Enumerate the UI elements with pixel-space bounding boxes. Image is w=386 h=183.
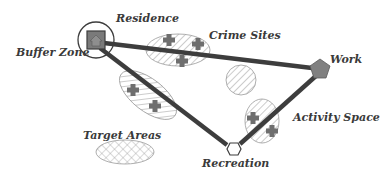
- crime-sites-label: Crime Sites: [209, 30, 281, 41]
- residence-label: Residence: [116, 13, 179, 24]
- recreation-node-hexagon-icon: [227, 143, 241, 155]
- activity-space-label: Activity Space: [293, 112, 380, 123]
- work-node-pentagon-icon: [310, 59, 330, 78]
- path-area-left: [111, 61, 184, 128]
- target-area: [96, 140, 154, 164]
- target-areas-label: Target Areas: [83, 130, 161, 141]
- crime-pattern-diagram: [0, 0, 386, 183]
- isolated-area: [226, 65, 256, 95]
- buffer-zone-label: Buffer Zone: [16, 47, 89, 58]
- residence-node: [87, 31, 105, 49]
- work-label: Work: [330, 54, 362, 65]
- recreation-label: Recreation: [202, 158, 269, 169]
